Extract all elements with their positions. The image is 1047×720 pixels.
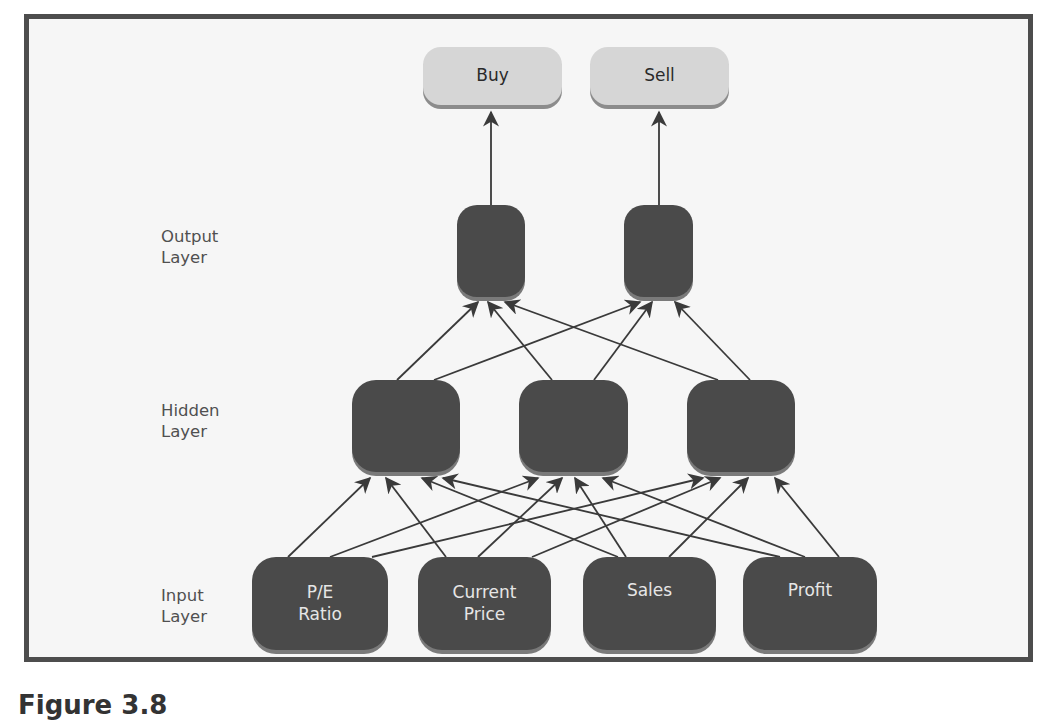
input-node-profit: Profit: [743, 557, 877, 650]
input-layer-label: Input Layer: [161, 585, 207, 628]
hidden-node-2: [519, 380, 628, 472]
input-node-pe-ratio-line2: Ratio: [298, 604, 342, 625]
hidden-layer-label-line1: Hidden: [161, 400, 220, 421]
hidden-node-3: [687, 380, 795, 472]
input-node-current-price-line1: Current: [453, 582, 517, 603]
input-layer-label-line2: Layer: [161, 606, 207, 627]
output-layer-label-line1: Output: [161, 226, 218, 247]
input-node-pe-ratio-line1: P/E: [298, 582, 342, 603]
input-node-current-price: Current Price: [418, 557, 551, 650]
hidden-layer-label-line2: Layer: [161, 421, 220, 442]
output-node-1: [457, 205, 525, 297]
hidden-node-1: [352, 380, 460, 472]
input-node-sales-label: Sales: [627, 580, 672, 601]
decision-buy: Buy: [423, 47, 562, 105]
input-node-profit-label: Profit: [788, 580, 832, 601]
decision-sell: Sell: [590, 47, 729, 105]
output-layer-label: Output Layer: [161, 226, 218, 269]
input-node-pe-ratio: P/E Ratio: [252, 557, 388, 650]
output-node-2: [624, 205, 693, 297]
decision-buy-label: Buy: [476, 65, 509, 86]
input-node-current-price-line2: Price: [453, 604, 517, 625]
input-layer-label-line1: Input: [161, 585, 207, 606]
hidden-layer-label: Hidden Layer: [161, 400, 220, 443]
decision-sell-label: Sell: [644, 65, 675, 86]
input-node-sales: Sales: [583, 557, 716, 650]
output-layer-label-line2: Layer: [161, 247, 218, 268]
figure-caption: Figure 3.8: [18, 690, 167, 720]
